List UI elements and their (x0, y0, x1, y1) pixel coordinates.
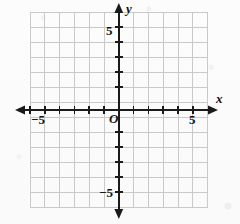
x-tick-label-positive-five: 5 (189, 113, 196, 126)
x-axis-label: x (216, 92, 223, 105)
x-axis-arrow-left (15, 106, 25, 115)
y-axis-arrow-up (114, 3, 123, 13)
origin-label: O (109, 112, 118, 125)
x-tick-label-negative-five: −5 (31, 113, 45, 126)
y-axis-label: y (126, 2, 132, 15)
y-tick-label-positive-five: 5 (106, 24, 113, 37)
x-axis-arrow-right (208, 106, 218, 115)
y-tick-label-negative-five: −5 (99, 186, 113, 199)
y-axis-arrow-down (114, 209, 123, 219)
